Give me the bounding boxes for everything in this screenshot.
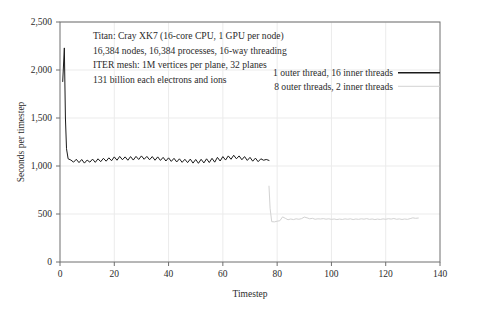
annotation-block: Titan: Cray XK7 (16-core CPU, 1 GPU per …: [93, 30, 287, 85]
x-tick-label: 40: [164, 269, 174, 279]
gridlines: [60, 22, 440, 262]
series-line: [269, 186, 418, 222]
x-axis-tick-labels: 020406080100120140: [58, 269, 448, 279]
x-tick-label: 120: [379, 269, 394, 279]
annotation-line: ITER mesh: 1M vertices per plane, 32 pla…: [93, 59, 267, 70]
plot-frame: [60, 22, 440, 262]
y-tick-label: 500: [38, 209, 53, 219]
annotation-line: 16,384 nodes, 16,384 processes, 16-way t…: [93, 45, 287, 56]
legend-label: 8 outer threads, 2 inner threads: [274, 81, 393, 92]
x-tick-label: 100: [324, 269, 339, 279]
chart-legend: 1 outer thread, 16 inner threads8 outer …: [273, 67, 440, 92]
y-tick-label: 1,000: [31, 161, 53, 171]
x-tick-label: 0: [58, 269, 63, 279]
chart-figure: 05001,0001,5002,0002,500 020406080100120…: [0, 0, 477, 309]
x-axis-title: Timestep: [232, 289, 267, 299]
x-tick-label: 80: [272, 269, 282, 279]
x-tick-label: 60: [218, 269, 228, 279]
x-tick-label: 20: [110, 269, 120, 279]
legend-label: 1 outer thread, 16 inner threads: [273, 67, 393, 78]
x-tick-label: 140: [433, 269, 448, 279]
y-tick-label: 2,000: [31, 65, 53, 75]
y-axis-tick-labels: 05001,0001,5002,0002,500: [31, 17, 53, 267]
annotation-line: Titan: Cray XK7 (16-core CPU, 1 GPU per …: [93, 30, 284, 42]
line-chart: 05001,0001,5002,0002,500 020406080100120…: [0, 0, 477, 309]
annotation-line: 131 billion each electrons and ions: [93, 74, 227, 85]
y-tick-label: 1,500: [31, 113, 53, 123]
y-tick-label: 0: [47, 257, 52, 267]
y-axis-title: Seconds per timestep: [16, 101, 26, 182]
y-tick-label: 2,500: [31, 17, 53, 27]
